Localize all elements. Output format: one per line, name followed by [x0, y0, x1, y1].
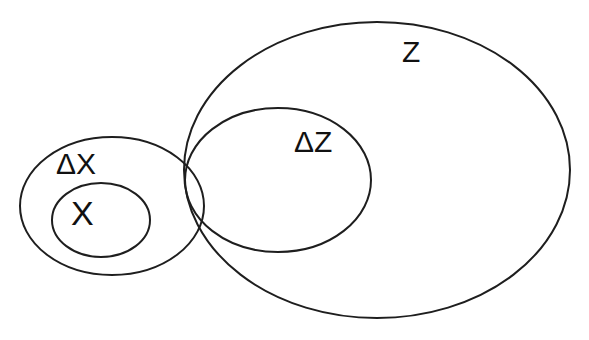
set-x-ellipse: [52, 183, 150, 257]
set-diagram: Z ΔZ ΔX X: [0, 0, 589, 340]
set-delta-x-ellipse: [20, 137, 204, 275]
set-delta-z-ellipse: [185, 108, 371, 252]
set-delta-x-label: ΔX: [56, 147, 96, 180]
set-z-ellipse: [184, 22, 570, 318]
set-delta-z-label: ΔZ: [294, 125, 332, 158]
set-z-label: Z: [402, 35, 420, 68]
set-x-label: X: [71, 194, 94, 232]
